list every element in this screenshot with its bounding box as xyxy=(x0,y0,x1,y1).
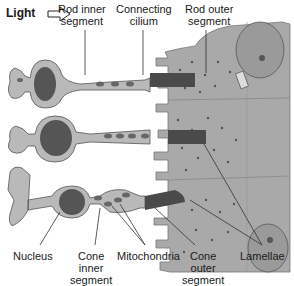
label-rod-outer-segment: Rod outer segment xyxy=(185,3,233,27)
label-cone-outer-segment: Cone outer segment xyxy=(182,250,224,286)
label-connecting-cilium: Connecting cilium xyxy=(116,3,172,27)
rod-outer-segment-top xyxy=(150,73,195,87)
label-cone-inner-segment: Cone inner segment xyxy=(70,250,112,286)
cone-nucleus xyxy=(59,189,85,215)
rod-outer-segment-middle xyxy=(168,130,206,144)
rod-cell-top xyxy=(8,60,195,108)
photoreceptor-diagram xyxy=(0,0,294,286)
light-label: Light xyxy=(6,7,35,19)
rod-nucleus-top xyxy=(34,67,56,101)
label-lamellae: Lamellae xyxy=(240,250,285,262)
label-rod-inner-segment: Rod inner segment xyxy=(58,3,106,27)
rod-nucleus-middle xyxy=(40,120,72,156)
pigment-epithelium xyxy=(154,22,290,272)
label-mitochondria: Mitochondria xyxy=(117,250,180,262)
label-nucleus: Nucleus xyxy=(13,250,53,262)
